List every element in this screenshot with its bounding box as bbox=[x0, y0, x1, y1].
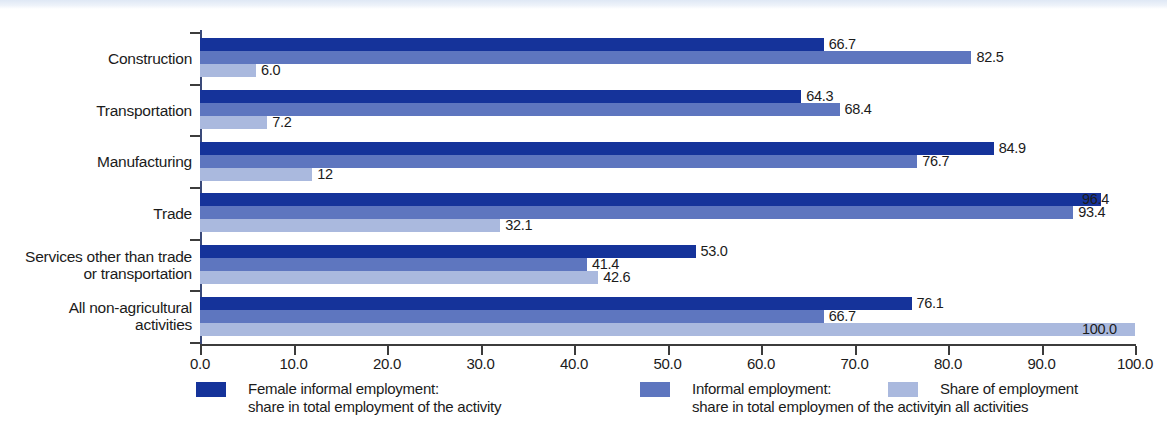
legend-swatch bbox=[888, 382, 918, 397]
x-axis-tick bbox=[1135, 346, 1137, 355]
category-label: Construction bbox=[4, 49, 192, 66]
legend-item: Share of employmentin all activities bbox=[888, 380, 1078, 416]
bar-value-label: 82.5 bbox=[971, 51, 1003, 64]
bar-series-2 bbox=[200, 64, 256, 77]
bar-value-label: 12 bbox=[312, 168, 333, 181]
category-label-line: Manufacturing bbox=[4, 153, 192, 170]
category-label: Services other than tradeor transportati… bbox=[4, 248, 192, 282]
x-axis-tick-label: 70.0 bbox=[841, 355, 869, 372]
x-axis-tick bbox=[294, 346, 296, 355]
x-axis-tick bbox=[761, 346, 763, 355]
category-label: Manufacturing bbox=[4, 153, 192, 170]
bar-series-1 bbox=[200, 155, 917, 168]
x-axis-tick bbox=[481, 346, 483, 355]
bar-value-label: 64.3 bbox=[801, 90, 833, 103]
bar-series-2 bbox=[200, 271, 598, 284]
legend-label: Share of employmentin all activities bbox=[940, 380, 1078, 416]
y-axis-tick bbox=[190, 290, 200, 292]
y-axis-tick bbox=[190, 187, 200, 189]
x-axis-tick-label: 50.0 bbox=[654, 355, 682, 372]
category-label-line: activities bbox=[4, 316, 192, 333]
bar-series-2 bbox=[200, 323, 1135, 336]
bar-series-0 bbox=[200, 297, 912, 310]
x-axis-tick-label: 10.0 bbox=[280, 355, 308, 372]
x-axis-tick bbox=[200, 346, 202, 355]
y-axis-tick bbox=[190, 135, 200, 137]
category-label: All non-agriculturalactivities bbox=[4, 299, 192, 333]
bar-value-label: 66.7 bbox=[824, 310, 856, 323]
legend-swatch bbox=[196, 382, 226, 397]
legend-swatch bbox=[640, 382, 670, 397]
x-axis-tick bbox=[1042, 346, 1044, 355]
bar-series-1 bbox=[200, 51, 971, 64]
x-axis-tick-label: 0.0 bbox=[190, 355, 210, 372]
category-label: Transportation bbox=[4, 101, 192, 118]
x-axis-tick bbox=[387, 346, 389, 355]
bar-value-label: 76.1 bbox=[912, 297, 944, 310]
legend-label-line: in all activities bbox=[940, 398, 1078, 416]
bar-value-label: 6.0 bbox=[256, 64, 280, 77]
y-axis-tick bbox=[190, 84, 200, 86]
category-label-line: or transportation bbox=[4, 265, 192, 282]
bar-value-label: 84.9 bbox=[994, 142, 1026, 155]
bar-value-label: 53.0 bbox=[696, 245, 728, 258]
bar-value-label: 32.1 bbox=[500, 219, 532, 232]
x-axis-tick-label: 40.0 bbox=[560, 355, 588, 372]
legend-label: Female informal employment:share in tota… bbox=[248, 380, 501, 416]
bar-value-label: 7.2 bbox=[267, 116, 291, 129]
bar-value-label: 66.7 bbox=[824, 38, 856, 51]
category-axis-labels: ConstructionTransportationManufacturingT… bbox=[0, 32, 192, 342]
category-label-line: Trade bbox=[4, 204, 192, 221]
category-label-line: All non-agricultural bbox=[4, 299, 192, 316]
bar-series-1 bbox=[200, 103, 840, 116]
y-axis-tick bbox=[190, 342, 200, 344]
category-label-line: Services other than trade bbox=[4, 248, 192, 265]
bar-series-1 bbox=[200, 206, 1073, 219]
category-label-line: Transportation bbox=[4, 101, 192, 118]
legend-label-line: Female informal employment: bbox=[248, 380, 501, 398]
x-axis-tick-label: 60.0 bbox=[747, 355, 775, 372]
category-label: Trade bbox=[4, 204, 192, 221]
y-axis-tick bbox=[190, 239, 200, 241]
x-axis-tick-label: 20.0 bbox=[373, 355, 401, 372]
x-axis-tick-label: 100.0 bbox=[1117, 355, 1153, 372]
x-axis-tick bbox=[948, 346, 950, 355]
chart-figure: ConstructionTransportationManufacturingT… bbox=[0, 0, 1167, 437]
bar-value-label: 76.7 bbox=[917, 155, 949, 168]
bar-series-2 bbox=[200, 168, 312, 181]
bar-series-1 bbox=[200, 258, 587, 271]
x-axis-tick-label: 90.0 bbox=[1028, 355, 1056, 372]
y-axis-tick bbox=[190, 32, 200, 34]
legend-label-line: Share of employment bbox=[940, 380, 1078, 398]
bar-value-label: 100.0 bbox=[1077, 323, 1117, 336]
category-label-line: Construction bbox=[4, 49, 192, 66]
bar-value-label: 42.6 bbox=[598, 271, 630, 284]
page-top-band bbox=[0, 0, 1167, 9]
bar-series-0 bbox=[200, 142, 994, 155]
bar-series-1 bbox=[200, 310, 824, 323]
legend-item: Female informal employment:share in tota… bbox=[196, 380, 501, 416]
legend-label-line: share in total employment of the activit… bbox=[248, 398, 501, 416]
x-axis-tick bbox=[855, 346, 857, 355]
chart-legend: Female informal employment:share in tota… bbox=[0, 376, 1167, 434]
x-axis-tick-label: 30.0 bbox=[467, 355, 495, 372]
bar-series-0 bbox=[200, 38, 824, 51]
bar-value-label: 93.4 bbox=[1073, 206, 1105, 219]
bar-series-0 bbox=[200, 193, 1101, 206]
bar-series-2 bbox=[200, 219, 500, 232]
plot-area: 66.782.56.064.368.47.284.976.71296.493.4… bbox=[200, 32, 1135, 342]
x-axis-tick-label: 80.0 bbox=[934, 355, 962, 372]
bar-series-0 bbox=[200, 90, 801, 103]
bar-value-label: 68.4 bbox=[840, 103, 872, 116]
bar-series-0 bbox=[200, 245, 696, 258]
x-axis-tick bbox=[668, 346, 670, 355]
x-axis-tick bbox=[574, 346, 576, 355]
bar-series-2 bbox=[200, 116, 267, 129]
